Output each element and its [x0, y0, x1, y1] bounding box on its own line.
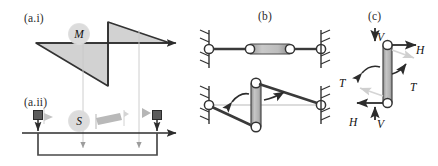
- projection-guide-left-arrow: [80, 142, 85, 148]
- rod-right-bottom: [259, 84, 317, 103]
- force-label-h-bottom: H: [349, 116, 357, 128]
- fbd-rotation-arrow-right: [392, 64, 406, 74]
- member-bar-rotated: [251, 83, 261, 127]
- load-marker-left: [34, 108, 54, 131]
- rotation-arrow-right: [264, 92, 284, 100]
- pin-member-left-top: [245, 44, 254, 53]
- load-marker-right-ghost-flag: [142, 108, 151, 118]
- force-label-v-bottom: V: [377, 118, 384, 130]
- load-marker-center-ghost: [96, 110, 129, 129]
- pin-member-right-top: [285, 44, 294, 53]
- panel-a-ii-shear-diagram: [22, 108, 176, 155]
- pin-left-top: [204, 44, 213, 53]
- panel-label-a-i: (a.i): [24, 12, 44, 24]
- structural-diagram-figure: [0, 0, 438, 166]
- load-marker-left-ghost-flag: [44, 113, 53, 121]
- shear-variable-label: S: [68, 110, 90, 132]
- fbd-member-bar: [383, 45, 392, 103]
- ghost-flag-center: [96, 113, 122, 125]
- fbd-pin-bottom: [383, 98, 392, 107]
- panel-a-i-moment-diagram: [36, 22, 176, 148]
- projection-guide-right-arrow: [136, 142, 141, 148]
- force-label-t-left: T: [339, 77, 345, 89]
- rod-left-bottom: [212, 107, 255, 127]
- panel-label-a-ii: (a.ii): [24, 96, 47, 108]
- force-label-v-top: V: [377, 31, 384, 43]
- force-label-t-right: T: [410, 81, 416, 93]
- load-marker-right-square: [153, 111, 162, 120]
- load-marker-right: [142, 108, 162, 131]
- ghost-flag-center-right: [124, 111, 129, 117]
- force-arrow-t-right-ghost: [392, 50, 414, 58]
- link-configuration-rotated: [200, 78, 330, 132]
- rotation-arrow-left: [232, 94, 249, 102]
- moment-variable-label: M: [68, 23, 90, 45]
- pin-member-bottom-rotated: [251, 122, 261, 132]
- fbd-pin-top: [383, 40, 392, 49]
- panel-b-pin-jointed-link: [200, 30, 330, 132]
- force-label-h-top: H: [416, 44, 424, 56]
- link-configuration-straight: [200, 30, 330, 68]
- member-bar-top: [250, 44, 290, 54]
- panel-label-c: (c): [368, 10, 381, 22]
- fbd-rotation-arrow-left: [362, 66, 380, 73]
- force-arrow-t-left-ghost: [360, 88, 383, 96]
- panel-label-b: (b): [258, 10, 272, 22]
- panel-c-free-body-diagram: [357, 28, 416, 120]
- load-marker-left-square: [34, 111, 43, 120]
- moment-negative-lobe: [36, 43, 108, 86]
